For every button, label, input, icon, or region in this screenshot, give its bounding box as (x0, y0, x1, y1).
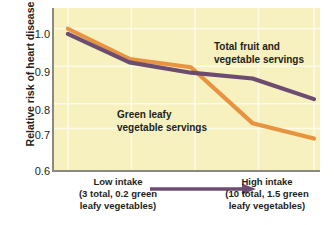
annotation-total-fruit-label: Total fruit and vegetable servings (214, 41, 304, 66)
y-axis-tick-labels: 1.0 0.9 0.8 0.7 0.6 (10, 0, 50, 225)
y-tick-label: 1.0 (16, 29, 50, 40)
x-axis-caption: Low intake (3 total, 0.2 green leafy veg… (52, 176, 334, 225)
x-axis-high-intake-label: High intake (10 total, 1.5 green leafy v… (200, 176, 334, 212)
y-tick-label: 0.8 (16, 105, 50, 116)
y-tick-label: 0.6 (16, 166, 50, 177)
annotation-green-leafy-label: Green leafy vegetable servings (117, 109, 207, 134)
y-tick-label: 0.7 (16, 130, 50, 141)
chart-figure: Relative risk of heart disease 1.0 0.9 0… (0, 0, 334, 225)
y-tick-label: 0.9 (16, 67, 50, 78)
gridlines-vertical (68, 8, 314, 170)
plot-svg (54, 8, 320, 170)
plot-area: Total fruit and vegetable servings Green… (52, 8, 320, 172)
